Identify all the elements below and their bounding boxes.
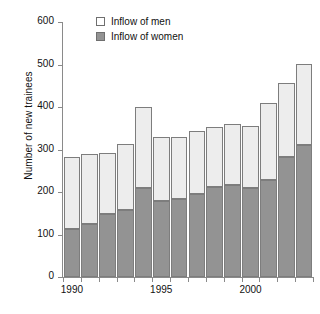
x-tick	[259, 277, 260, 282]
bar-segment-men	[278, 83, 295, 157]
bar-group	[81, 22, 98, 277]
y-tick: 500	[58, 65, 63, 66]
y-tick-label: 500	[37, 58, 54, 69]
bar-group	[99, 22, 116, 277]
bar-segment-men	[64, 157, 81, 229]
x-tick	[224, 277, 225, 282]
x-tick	[99, 277, 100, 282]
bar-segment-men	[242, 126, 259, 188]
bar-segment-women	[81, 224, 98, 277]
legend-label-women: Inflow of women	[111, 31, 183, 42]
y-tick-label: 100	[37, 228, 54, 239]
bar-segment-men	[81, 154, 98, 224]
bar-segment-women	[206, 187, 223, 277]
x-tick	[242, 277, 243, 282]
bar-segment-women	[278, 157, 295, 277]
bar-segment-men	[189, 131, 206, 194]
bar-segment-men	[206, 127, 223, 187]
bar-group	[224, 22, 241, 277]
bar-segment-men	[153, 137, 170, 202]
x-tick	[134, 277, 135, 282]
bar-group	[153, 22, 170, 277]
bar-segment-women	[224, 185, 241, 277]
x-tick	[152, 277, 153, 282]
x-tick	[295, 277, 296, 282]
bar-group	[64, 22, 81, 277]
plot-area: 0100200300400500600 199019952000	[63, 22, 313, 277]
bar-segment-women	[296, 145, 313, 277]
x-tick	[188, 277, 189, 282]
bar-segment-men	[99, 153, 116, 214]
x-tick	[277, 277, 278, 282]
bar-segment-men	[135, 107, 152, 189]
y-tick: 400	[58, 107, 63, 108]
legend-item-women: Inflow of women	[96, 29, 183, 44]
legend-item-men: Inflow of men	[96, 14, 183, 29]
x-tick-label: 1990	[61, 284, 83, 295]
bar-segment-women	[153, 201, 170, 277]
x-tick	[206, 277, 207, 282]
bar-segment-men	[260, 103, 277, 180]
bar-group	[278, 22, 295, 277]
bar-segment-men	[117, 144, 134, 210]
y-tick: 100	[58, 235, 63, 236]
y-axis-title: Number of new trainees	[23, 36, 34, 216]
x-tick	[313, 277, 314, 282]
bar-segment-women	[135, 188, 152, 277]
stacked-bar-chart: Number of new trainees 01002003004005006…	[0, 0, 320, 314]
y-tick-label: 200	[37, 185, 54, 196]
bar-group	[189, 22, 206, 277]
bar-segment-women	[171, 199, 188, 277]
bar-group	[171, 22, 188, 277]
bar-segment-women	[242, 188, 259, 277]
bar-segment-women	[117, 210, 134, 277]
bar-group	[242, 22, 259, 277]
y-tick-label: 600	[37, 15, 54, 26]
y-tick-label: 300	[37, 143, 54, 154]
x-tick-label: 1995	[150, 284, 172, 295]
bar-segment-men	[296, 64, 313, 145]
x-tick-label: 2000	[239, 284, 261, 295]
y-tick: 600	[58, 22, 63, 23]
legend-swatch-men-icon	[96, 17, 105, 26]
bar-group	[135, 22, 152, 277]
bar-segment-women	[64, 229, 81, 277]
legend-label-men: Inflow of men	[111, 16, 170, 27]
bar-group	[117, 22, 134, 277]
y-tick: 200	[58, 192, 63, 193]
legend-swatch-women-icon	[96, 32, 105, 41]
bar-segment-men	[224, 124, 241, 185]
bar-segment-women	[189, 194, 206, 277]
bar-group	[206, 22, 223, 277]
bar-group	[260, 22, 277, 277]
y-tick-label: 0	[48, 270, 54, 281]
x-tick	[81, 277, 82, 282]
x-tick	[117, 277, 118, 282]
chart-legend: Inflow of men Inflow of women	[96, 14, 183, 44]
bar-segment-men	[171, 137, 188, 199]
bar-segment-women	[99, 214, 116, 277]
x-tick	[63, 277, 64, 282]
y-tick: 300	[58, 150, 63, 151]
bar-segment-women	[260, 180, 277, 277]
x-tick	[170, 277, 171, 282]
bar-group	[296, 22, 313, 277]
y-tick-label: 400	[37, 100, 54, 111]
